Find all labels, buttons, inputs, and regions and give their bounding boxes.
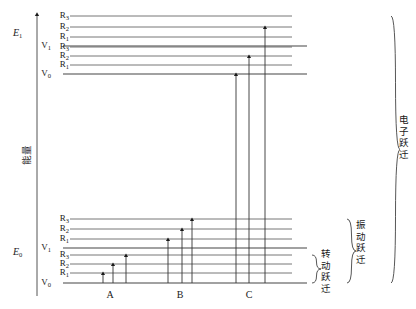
rot-level-label: R3 — [60, 249, 69, 260]
brace-label-vibrational: 跃 — [356, 242, 366, 253]
brace-label-vibrational: 振 — [356, 219, 366, 230]
brace-label-electronic: 迁 — [399, 149, 409, 160]
brace-label-rotational: 跃 — [321, 271, 331, 282]
brace-label-vibrational: 迁 — [356, 254, 366, 265]
vib-level-label: V1 — [41, 242, 51, 253]
diagram-canvas: 能量 转动跃迁振动跃迁电子跃迁 E1R1R2R3V1R1R2R3V0E0R1R2… — [0, 0, 416, 309]
vib-level-label: V1 — [41, 40, 51, 51]
rot-level-label: R2 — [60, 21, 69, 32]
energy-axis: 能量 — [21, 14, 37, 296]
brace-label-electronic: 子 — [399, 126, 409, 137]
brace-label-vibrational: 动 — [356, 231, 366, 242]
brace-label-rotational: 动 — [321, 260, 331, 271]
brace-label-rotational: 转 — [321, 248, 331, 259]
rot-level-label: R1 — [60, 233, 69, 244]
group-label-B: B — [177, 289, 184, 300]
vib-level-label: V0 — [41, 277, 51, 288]
rot-level-label: R2 — [60, 223, 69, 234]
rot-level-label: R3 — [60, 41, 69, 52]
brace-label-electronic: 电 — [399, 114, 409, 125]
brace-label-rotational: 迁 — [321, 283, 331, 294]
state-label-E1: E1 — [12, 27, 22, 39]
energy-axis-label: 能量 — [21, 145, 32, 165]
brace-label-electronic: 跃 — [399, 137, 409, 148]
brace-annotations: 转动跃迁振动跃迁电子跃迁 — [312, 16, 409, 294]
energy-levels — [63, 16, 307, 283]
brace-rotational — [312, 255, 321, 283]
group-label-C: C — [246, 289, 253, 300]
diagram-labels: E1R1R2R3V1R1R2R3V0E0R1R2R3V1R1R2R3V0ABC — [12, 10, 253, 300]
brace-vibrational — [347, 219, 356, 283]
vib-level-label: V0 — [41, 68, 51, 79]
energy-level-diagram: 能量 转动跃迁振动跃迁电子跃迁 E1R1R2R3V1R1R2R3V0E0R1R2… — [0, 0, 416, 309]
group-label-A: A — [106, 289, 114, 300]
rot-level-label: R3 — [60, 10, 69, 21]
rot-level-label: R3 — [60, 213, 69, 224]
state-label-E0: E0 — [12, 246, 22, 258]
